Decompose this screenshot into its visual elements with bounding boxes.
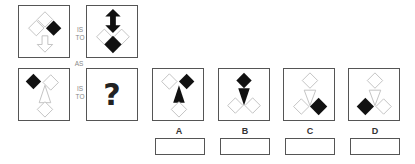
option-panel-a[interactable] xyxy=(152,68,204,121)
diamonds-with-up-triangle-figure xyxy=(19,69,69,120)
option-panel-c[interactable] xyxy=(283,68,335,121)
option-c-figure xyxy=(284,69,334,120)
is-to-label-row2: IS TO xyxy=(73,85,87,101)
question-mark: ? xyxy=(87,69,137,120)
option-a-figure xyxy=(153,69,203,120)
answer-input-c[interactable] xyxy=(285,138,335,155)
premise-panel-2 xyxy=(86,5,138,58)
option-label-a: A xyxy=(153,126,205,136)
premise-panel-1 xyxy=(18,5,70,58)
is-to-label-row1: IS TO xyxy=(73,26,87,42)
unknown-panel: ? xyxy=(86,68,138,121)
option-label-d: D xyxy=(349,126,401,136)
answer-input-a[interactable] xyxy=(155,138,205,155)
premise-panel-3 xyxy=(18,68,70,121)
as-label: AS xyxy=(72,60,86,68)
option-label-b: B xyxy=(219,126,271,136)
diamonds-with-down-arrow-figure xyxy=(19,6,69,57)
option-label-c: C xyxy=(284,126,336,136)
answer-input-b[interactable] xyxy=(220,138,270,155)
option-panel-d[interactable] xyxy=(348,68,400,121)
answer-input-d[interactable] xyxy=(350,138,400,155)
option-b-figure xyxy=(219,69,269,120)
option-d-figure xyxy=(349,69,399,120)
option-panel-b[interactable] xyxy=(218,68,270,121)
arrow-with-diamonds-figure xyxy=(87,6,137,57)
